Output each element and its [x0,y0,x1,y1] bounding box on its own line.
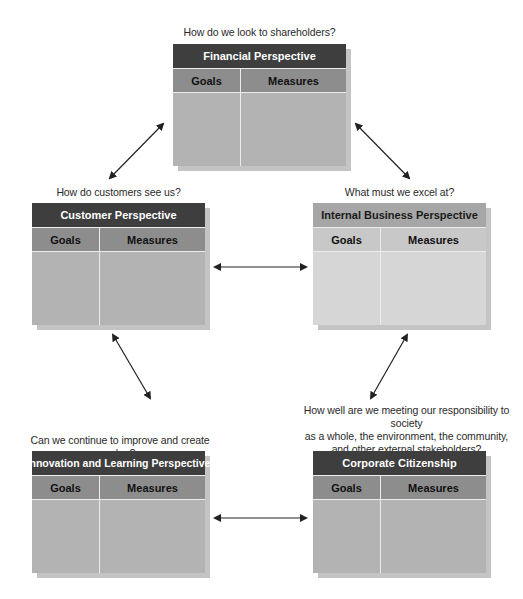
arrow-financial-customer [110,124,163,178]
connection-arrows [0,0,523,599]
arrow-financial-internal [356,124,409,178]
arrow-customer-innovation [113,335,150,398]
arrow-internal-corporate [371,335,407,398]
